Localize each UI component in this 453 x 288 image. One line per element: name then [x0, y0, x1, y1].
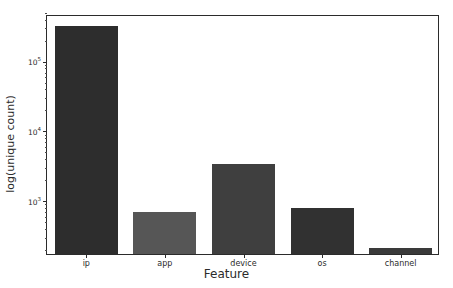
y-tick-minor-mark [45, 83, 48, 84]
bars-layer [47, 16, 438, 254]
x-tick-mark [244, 254, 245, 258]
y-tick-mark [43, 131, 47, 132]
x-tick-mark [86, 254, 87, 258]
y-tick-minor-mark [45, 28, 48, 29]
y-tick-minor-mark [45, 142, 48, 143]
bar-chart-figure: 103104105 ipappdeviceoschannel Feature l… [0, 0, 453, 288]
y-tick-minor-mark [45, 212, 48, 213]
bar-device [212, 164, 275, 254]
y-tick-minor-mark [45, 204, 48, 205]
x-tick-mark [322, 254, 323, 258]
y-tick-minor-mark [45, 208, 48, 209]
x-tick-mark [165, 254, 166, 258]
y-tick-label: 104 [28, 129, 41, 137]
x-tick-label-ip: ip [83, 260, 90, 268]
x-tick-label-app: app [157, 260, 172, 268]
y-tick-minor-mark [45, 159, 48, 160]
y-tick-minor-mark [45, 180, 48, 181]
y-tick-minor-mark [45, 147, 48, 148]
plot-area: 103104105 ipappdeviceoschannel [46, 15, 439, 255]
y-tick-minor-mark [45, 168, 48, 169]
y-tick-minor-mark [45, 229, 48, 230]
y-tick-minor-mark [45, 13, 48, 14]
y-tick-minor-mark [45, 68, 48, 69]
y-tick-minor-mark [45, 238, 48, 239]
y-axis-title: log(unique count) [5, 24, 16, 264]
y-tick-label: 103 [28, 198, 41, 206]
y-tick-minor-mark [45, 77, 48, 78]
y-tick-minor-mark [45, 73, 48, 74]
y-tick-mark [43, 62, 47, 63]
y-tick-minor-mark [45, 222, 48, 223]
y-tick-minor-mark [45, 217, 48, 218]
y-tick-minor-mark [45, 89, 48, 90]
bar-app [133, 212, 196, 254]
y-tick-minor-mark [45, 41, 48, 42]
y-tick-minor-mark [45, 138, 48, 139]
bar-ip [55, 26, 118, 254]
bar-os [291, 208, 354, 254]
y-tick-minor-mark [45, 20, 48, 21]
y-tick-minor-mark [45, 135, 48, 136]
y-tick-minor-mark [45, 152, 48, 153]
y-tick-label: 105 [28, 59, 41, 67]
y-tick-minor-mark [45, 65, 48, 66]
y-tick-minor-mark [45, 110, 48, 111]
y-tick-minor-mark [45, 98, 48, 99]
y-tick-minor-mark [45, 250, 48, 251]
x-tick-label-channel: channel [385, 260, 417, 268]
x-axis-title: Feature [0, 268, 453, 280]
y-tick-mark [43, 201, 47, 202]
x-tick-mark [401, 254, 402, 258]
x-tick-label-os: os [318, 260, 327, 268]
